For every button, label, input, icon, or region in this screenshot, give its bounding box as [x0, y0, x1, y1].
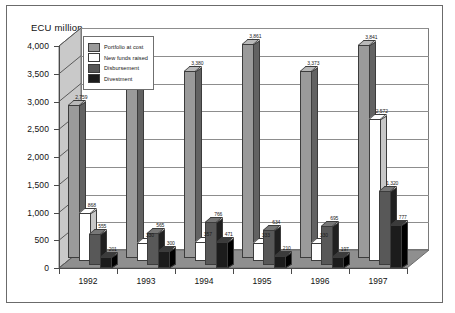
x-axis-tick [349, 268, 350, 274]
legend-item-label: Portfolio at cost [104, 44, 143, 50]
chart-bar-side [170, 248, 176, 268]
chart-bar-value-label: 1,320 [386, 180, 398, 186]
x-axis-tick [233, 268, 234, 274]
chart-bar-face [158, 251, 170, 268]
legend-item-label: Divestment [104, 76, 132, 82]
chart-bar-value-label: 2,572 [376, 108, 388, 114]
chart-bar-value-label: 357 [204, 231, 212, 237]
chart-bar-value-label: 330 [146, 232, 154, 238]
y-axis-label: 0 [15, 263, 49, 273]
chart-bar-side [254, 40, 260, 258]
chart-plot-area: 05001,0001,5002,0002,5003,0003,5004,0002… [17, 16, 434, 294]
x-axis-label: 1993 [137, 276, 156, 286]
chart-gridline [81, 28, 429, 29]
y-axis-label: 3,500 [15, 69, 49, 79]
legend-item-label: New funds raised [104, 55, 148, 61]
chart-bar-value-label: 333 [262, 232, 270, 238]
chart-bar-value-label: 565 [156, 222, 164, 228]
x-axis-label: 1994 [195, 276, 214, 286]
legend-swatch-icon [88, 74, 100, 83]
y-axis-label: 1,500 [15, 180, 49, 190]
chart-bar [300, 71, 312, 258]
chart-bar-side [196, 67, 202, 258]
y-axis-line [59, 46, 60, 268]
chart-bar [126, 86, 138, 258]
y-axis-label: 2,000 [15, 152, 49, 162]
y-axis-label: 4,000 [15, 41, 49, 51]
chart-bar-value-label: 330 [320, 232, 328, 238]
chart-bar-side [312, 67, 318, 258]
legend-item[interactable]: New funds raised [88, 53, 148, 62]
y-axis-label: 500 [15, 235, 49, 245]
chart-bar-value-label: 555 [98, 223, 106, 229]
x-axis-tick [291, 268, 292, 274]
chart-bar [158, 251, 170, 268]
chart-bar-face [332, 257, 344, 268]
chart-bar-face [216, 242, 228, 268]
legend-swatch-icon [88, 64, 100, 73]
chart-bar-value-label: 777 [399, 214, 407, 220]
legend-swatch-icon [88, 43, 100, 52]
y-axis-label: 3,000 [15, 97, 49, 107]
legend-item[interactable]: Disbursement [88, 64, 148, 73]
chart-bar [184, 71, 196, 259]
chart-bar-face [126, 86, 138, 258]
chart-legend: Portfolio at costNew funds raisedDisburs… [83, 36, 154, 90]
x-axis-tick [407, 268, 408, 274]
chart-bar-face [184, 71, 196, 259]
legend-swatch-icon [88, 53, 100, 62]
x-axis-label: 1997 [369, 276, 388, 286]
x-axis-tick [117, 268, 118, 274]
chart-bar [216, 242, 228, 268]
chart-bar-side [228, 238, 234, 268]
chart-bar-value-label: 210 [283, 245, 291, 251]
x-axis-label: 1992 [79, 276, 98, 286]
legend-item-label: Disbursement [104, 65, 139, 71]
y-axis-label: 1,000 [15, 208, 49, 218]
x-axis-tick [175, 268, 176, 274]
chart-bar-face [300, 71, 312, 258]
legend-item[interactable]: Portfolio at cost [88, 43, 148, 52]
chart-bar-value-label: 2,759 [75, 94, 87, 100]
chart-bar-side [402, 221, 408, 268]
chart-bar-face [242, 44, 254, 258]
chart-bar-value-label: 3,380 [191, 60, 203, 66]
chart-bar-value-label: 300 [167, 240, 175, 246]
chart-bar-value-label: 3,373 [307, 60, 319, 66]
y-axis-label: 2,500 [15, 124, 49, 134]
chart-bar-face [274, 256, 286, 268]
chart-bar-value-label: 3,861 [249, 33, 261, 39]
chart-frame: ECU million 05001,0001,5002,0002,5003,00… [6, 5, 443, 303]
x-axis-tick [59, 268, 60, 274]
chart-bar [274, 256, 286, 268]
chart-bar-value-label: 201 [109, 246, 117, 252]
chart-bar-face [390, 225, 402, 268]
chart-bar-value-label: 695 [330, 215, 338, 221]
chart-bar-value-label: 197 [341, 246, 349, 252]
legend-item[interactable]: Divestment [88, 74, 148, 83]
chart-bar-value-label: 634 [272, 219, 280, 225]
chart-bar [100, 257, 112, 268]
chart-bar-value-label: 868 [88, 202, 96, 208]
chart-bar-side [138, 82, 144, 258]
chart-bar-face [100, 257, 112, 268]
chart-bar-value-label: 471 [225, 231, 233, 237]
chart-bar [390, 225, 402, 268]
x-axis-label: 1996 [311, 276, 330, 286]
chart-bar-value-label: 766 [214, 211, 222, 217]
chart-bar [242, 44, 254, 258]
x-axis-label: 1995 [253, 276, 272, 286]
chart-bar [332, 257, 344, 268]
chart-bar-value-label: 3,841 [365, 34, 377, 40]
